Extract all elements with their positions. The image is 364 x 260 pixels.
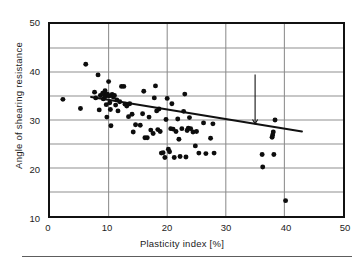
x-tick-0: 0 — [33, 222, 63, 233]
y-axis-title: Angle of shearing resistance — [13, 6, 24, 206]
figure-container: 50 40 30 20 10 0 10 20 30 40 50 Plastici… — [0, 0, 364, 260]
data-layer — [50, 24, 343, 216]
x-tick-40: 40 — [271, 222, 301, 233]
plot-area — [48, 22, 345, 218]
x-axis-title: Plasticity index [%] — [0, 238, 364, 249]
x-tick-10: 10 — [92, 222, 122, 233]
x-tick-30: 30 — [211, 222, 241, 233]
bottom-divider — [22, 256, 352, 257]
x-tick-50: 50 — [330, 222, 360, 233]
x-tick-20: 20 — [152, 222, 182, 233]
